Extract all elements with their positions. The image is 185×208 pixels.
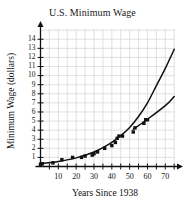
x-tick-label: 60 xyxy=(139,172,155,181)
y-tick-label: 6 xyxy=(22,108,36,116)
y-tick-label: 5 xyxy=(22,117,36,125)
y-tick-label: 12 xyxy=(22,53,36,61)
grid-lines xyxy=(41,29,176,167)
y-tick-label: 14 xyxy=(22,35,36,43)
y-tick-label: 10 xyxy=(22,71,36,79)
y-tick-label: 3 xyxy=(22,135,36,143)
y-tick-label: 7 xyxy=(22,99,36,107)
y-tick-label: 9 xyxy=(22,81,36,89)
y-tick-label: 11 xyxy=(22,62,36,70)
x-tick-label: 50 xyxy=(122,172,138,181)
axis-lines xyxy=(36,21,184,170)
x-tick-label: 70 xyxy=(157,172,173,181)
y-tick-label: 1 xyxy=(22,153,36,161)
chart-figure: U.S. Minimum Wage Minimum Wage (dollars)… xyxy=(0,0,185,208)
x-tick-label: 10 xyxy=(50,172,66,181)
x-tick-label: 20 xyxy=(68,172,84,181)
x-tick-label: 40 xyxy=(104,172,120,181)
y-tick-label: 13 xyxy=(22,44,36,52)
y-tick-label: 2 xyxy=(22,144,36,152)
y-tick-label: 8 xyxy=(22,90,36,98)
x-tick-label: 30 xyxy=(86,172,102,181)
y-tick-label: 4 xyxy=(22,126,36,134)
